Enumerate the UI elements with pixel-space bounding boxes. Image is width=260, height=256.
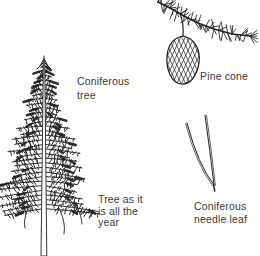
label-tree-season-note: Tree as it is all the year <box>98 194 143 229</box>
label-line: year <box>98 217 143 229</box>
label-line: Tree as it <box>98 194 143 206</box>
label-coniferous-tree: Coniferous tree <box>77 74 129 102</box>
needle-leaf-drawing <box>170 103 230 195</box>
label-line: Pine cone <box>200 70 248 83</box>
label-line: Coniferous <box>194 200 247 213</box>
label-needle-leaf: Coniferous needle leaf <box>194 200 247 225</box>
label-line: Coniferous <box>77 74 129 88</box>
label-line: tree <box>77 88 129 102</box>
label-pine-cone: Pine cone <box>200 70 248 83</box>
botanical-illustration-page: Coniferous tree Pine cone Tree as it is … <box>0 0 260 256</box>
needle-leaf-icon <box>170 103 230 195</box>
label-line: needle leaf <box>194 213 247 226</box>
